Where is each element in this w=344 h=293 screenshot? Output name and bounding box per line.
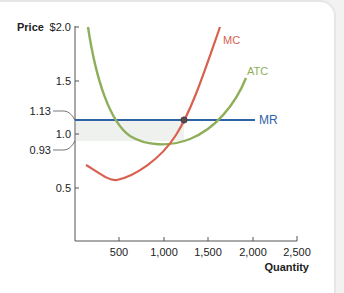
y-tick-label-0-5: 0.5 [56, 182, 71, 194]
y-annotation-1-13: 1.13 [30, 105, 51, 117]
x-tick-label-1000: 1,000 [150, 246, 178, 258]
y-tick-label-1-5: 1.5 [56, 75, 71, 87]
x-tick-label-2500: 2,500 [283, 246, 311, 258]
atc-label: ATC [247, 65, 268, 77]
x-tick-label-1500: 1,500 [194, 246, 222, 258]
cost-revenue-chart: Price $2.0 1.5 1.13 1.0 0.93 0.5 500 1,0… [0, 0, 344, 293]
leader-1-13 [53, 111, 75, 120]
profit-area [76, 120, 184, 141]
x-tick-label-2000: 2,000 [239, 246, 267, 258]
mc-curve [86, 27, 220, 180]
y-tick-label-2: $2.0 [50, 21, 71, 33]
y-tick-label-1-0: 1.0 [56, 128, 71, 140]
mc-label: MC [223, 34, 240, 46]
x-tick-label-500: 500 [110, 246, 128, 258]
mr-mc-intersection-point [181, 117, 187, 123]
x-axis-title: Quantity [264, 261, 309, 273]
y-axis-title: Price [17, 21, 44, 33]
mr-label: MR [259, 113, 278, 127]
y-ticks [75, 27, 79, 188]
leader-0-93 [53, 141, 75, 150]
x-ticks [119, 236, 297, 241]
y-annotation-0-93: 0.93 [30, 144, 51, 156]
